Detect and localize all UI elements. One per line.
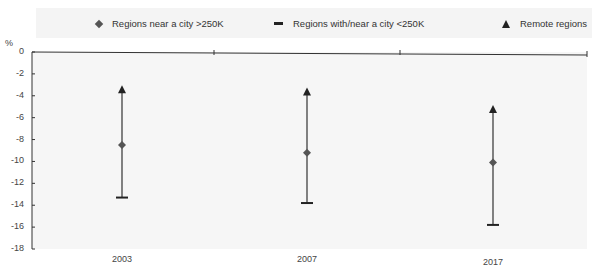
diamond-marker — [118, 141, 126, 149]
x-axis-line — [32, 52, 587, 55]
triangle-marker — [489, 105, 497, 113]
chart-canvas — [0, 0, 597, 276]
diamond-marker — [303, 149, 311, 157]
triangle-marker — [303, 87, 311, 95]
diamond-marker — [489, 159, 497, 167]
triangle-marker — [118, 85, 126, 93]
